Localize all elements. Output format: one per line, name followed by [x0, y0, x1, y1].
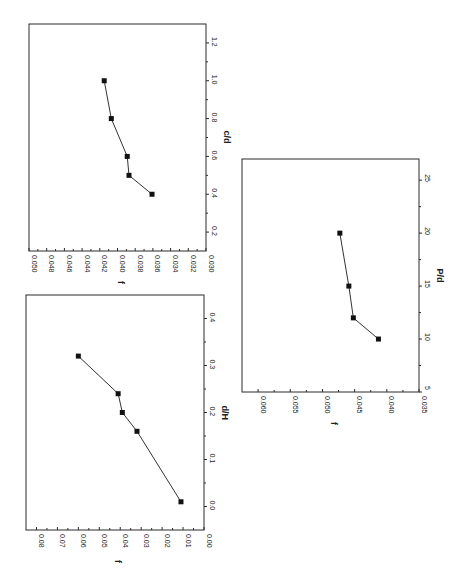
data-point-marker: [134, 429, 139, 434]
f-axis-tick-label: 0.036: [154, 255, 161, 273]
f-axis-tick-label: 0.030: [208, 255, 215, 273]
f-axis-label: f: [329, 422, 339, 426]
f-axis-tick-label: 0.07: [59, 534, 66, 548]
data-point-marker: [376, 337, 381, 342]
f-axis-tick-label: 0.048: [48, 255, 55, 273]
f-axis-tick-label: 0.03: [143, 534, 150, 548]
plot-frame: [242, 159, 419, 392]
data-point-marker: [351, 315, 356, 320]
data-line: [340, 233, 379, 339]
x-axis-label: P/d: [435, 269, 445, 283]
f-axis-tick-label: 0.042: [101, 255, 108, 273]
data-point-marker: [127, 173, 132, 178]
f-axis-tick-label: 0.06: [80, 534, 87, 548]
data-point-marker: [76, 354, 81, 359]
x-axis-tick-label: 25: [424, 174, 431, 182]
data-point-marker: [337, 231, 342, 236]
x-axis-tick-label: 15: [424, 280, 431, 288]
plot-frame: [29, 24, 206, 251]
x-axis-tick-label: 20: [424, 227, 431, 235]
x-axis-tick-label: 10: [424, 333, 431, 341]
f-axis-label: f: [116, 281, 126, 285]
f-axis-tick-label: 0.05: [101, 534, 108, 548]
data-point-marker: [346, 284, 351, 289]
x-axis-tick-label: 1.0: [211, 75, 218, 85]
data-point-marker: [116, 391, 121, 396]
x-axis-tick-label: 0.0: [209, 501, 216, 511]
chart-f-vs-pd: 0.0600.0550.0500.0450.0400.035510152025f…: [242, 159, 445, 426]
x-axis-tick-label: 0.6: [211, 150, 218, 160]
data-point-marker: [150, 192, 155, 197]
f-axis-tick-label: 0.044: [84, 255, 91, 273]
chart-f-vs-cd: 0.0500.0480.0460.0440.0420.0400.0380.036…: [29, 24, 232, 285]
data-point-marker: [178, 499, 183, 504]
x-axis-tick-label: 5: [424, 386, 431, 390]
f-axis-tick-label: 0.02: [164, 534, 171, 548]
x-axis-tick-label: 0.2: [211, 226, 218, 236]
f-axis-tick-label: 0.050: [324, 396, 331, 414]
data-point-marker: [120, 410, 125, 415]
f-axis-tick-label: 0.035: [421, 396, 428, 414]
f-axis-tick-label: 0.046: [66, 255, 73, 273]
figure-canvas: 0.0500.0480.0460.0440.0420.0400.0380.036…: [0, 0, 462, 576]
x-axis-tick-label: 0.2: [209, 407, 216, 417]
f-axis-tick-label: 0.040: [119, 255, 126, 273]
x-axis-tick-label: 1.2: [211, 37, 218, 47]
f-axis-tick-label: 0.032: [190, 255, 197, 273]
f-axis-tick-label: 0.060: [260, 396, 267, 414]
chart-f-vs-dh: 0.080.070.060.050.040.030.020.010.000.00…: [26, 295, 230, 564]
data-point-marker: [102, 78, 107, 83]
plot-frame: [26, 295, 204, 530]
f-axis-tick-label: 0.045: [356, 396, 363, 414]
x-axis-label: c/d: [222, 131, 232, 144]
f-axis-tick-label: 0.00: [206, 534, 213, 548]
f-axis-tick-label: 0.038: [137, 255, 144, 273]
f-axis-label: f: [113, 560, 123, 564]
x-axis-tick-label: 0.1: [209, 454, 216, 464]
x-axis-tick-label: 0.3: [209, 360, 216, 370]
f-axis-tick-label: 0.040: [388, 396, 395, 414]
x-axis-tick-label: 0.4: [209, 313, 216, 323]
f-axis-tick-label: 0.04: [122, 534, 129, 548]
x-axis-label: d/H: [220, 406, 230, 421]
x-axis-tick-label: 0.8: [211, 113, 218, 123]
f-axis-tick-label: 0.01: [185, 534, 192, 548]
f-axis-tick-label: 0.08: [38, 534, 45, 548]
data-point-marker: [125, 154, 130, 159]
x-axis-tick-label: 0.4: [211, 188, 218, 198]
data-line: [78, 356, 181, 502]
f-axis-tick-label: 0.050: [31, 255, 38, 273]
f-axis-tick-label: 0.034: [172, 255, 179, 273]
f-axis-tick-label: 0.055: [292, 396, 299, 414]
data-point-marker: [109, 116, 114, 121]
